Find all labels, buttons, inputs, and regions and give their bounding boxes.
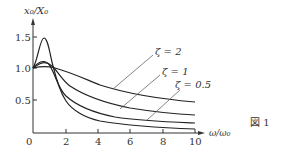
y-axis-label: x₀/X₀ xyxy=(24,5,48,16)
series-label-zeta-2: ζ = 2 xyxy=(155,46,182,57)
x-ticks xyxy=(66,129,195,133)
x-tick-label: 4 xyxy=(95,136,101,147)
x-axis-arrow-icon xyxy=(198,131,205,135)
y-axis-arrow-icon xyxy=(31,18,35,25)
chart: 0 2 4 6 8 10 0.5 1.0 1.5 x₀/X₀ ω/ω₀ ζ = … xyxy=(0,0,282,153)
x-tick-label: 0 xyxy=(26,136,32,147)
y-tick-label: 1.5 xyxy=(15,32,31,43)
series-label-zeta-0.5: ζ = 0.5 xyxy=(175,79,211,90)
series-label-zeta-1: ζ = 1 xyxy=(162,66,189,77)
x-tick-label: 6 xyxy=(127,136,133,147)
figure-label: 図 1 xyxy=(250,117,270,128)
x-axis-label: ω/ω₀ xyxy=(209,128,231,138)
axes xyxy=(33,22,200,133)
y-tick-label: 1.0 xyxy=(15,63,31,74)
x-tick-label: 10 xyxy=(189,136,202,147)
y-tick-label: 0.5 xyxy=(15,95,31,106)
x-tick-label: 8 xyxy=(160,136,166,147)
y-ticks xyxy=(33,37,37,100)
x-tick-label: 2 xyxy=(63,136,69,147)
